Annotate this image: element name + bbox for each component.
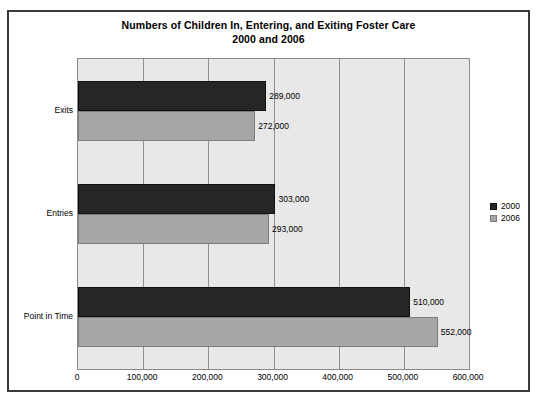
bar-point-in-time-2000 — [78, 287, 410, 317]
x-tick-label: 100,000 — [127, 372, 158, 382]
x-tick-label: 400,000 — [322, 372, 353, 382]
x-tick-label: 500,000 — [387, 372, 418, 382]
chart-title-line1: Numbers of Children In, Entering, and Ex… — [9, 18, 528, 32]
bar-value-label: 303,000 — [278, 194, 309, 204]
bar-entries-2000 — [78, 184, 275, 214]
legend-swatch-2006 — [490, 215, 497, 222]
bar-point-in-time-2006 — [78, 317, 438, 347]
bar-value-label: 552,000 — [441, 327, 472, 337]
bar-value-label: 272,000 — [258, 121, 289, 131]
x-tick-label: 300,000 — [257, 372, 288, 382]
plot-area: 289,000272,000303,000293,000510,000552,0… — [77, 58, 470, 370]
category-label-entries: Entries — [47, 208, 73, 218]
chart-legend: 2000 2006 — [490, 200, 520, 224]
category-label-exits: Exits — [55, 105, 73, 115]
bar-exits-2000 — [78, 81, 266, 111]
legend-item-2006: 2006 — [490, 212, 520, 224]
legend-swatch-2000 — [490, 203, 497, 210]
bar-value-label: 293,000 — [272, 224, 303, 234]
x-tick-label: 600,000 — [453, 372, 484, 382]
legend-item-2000: 2000 — [490, 200, 520, 212]
bar-exits-2006 — [78, 111, 255, 141]
chart-title-line2: 2000 and 2006 — [9, 32, 528, 46]
bar-entries-2006 — [78, 214, 269, 244]
legend-label-2000: 2000 — [501, 200, 520, 212]
bar-value-label: 510,000 — [413, 297, 444, 307]
x-axis: 0100,000200,000300,000400,000500,000600,… — [77, 372, 470, 388]
chart-figure: Numbers of Children In, Entering, and Ex… — [7, 10, 530, 392]
bar-value-label: 289,000 — [269, 91, 300, 101]
chart-title: Numbers of Children In, Entering, and Ex… — [9, 18, 528, 46]
gridline — [469, 59, 470, 369]
legend-label-2006: 2006 — [501, 212, 520, 224]
x-tick-label: 0 — [75, 372, 80, 382]
category-axis: ExitsEntriesPoint in Time — [9, 58, 73, 370]
category-label-point-in-time: Point in Time — [24, 311, 73, 321]
x-tick-label: 200,000 — [192, 372, 223, 382]
